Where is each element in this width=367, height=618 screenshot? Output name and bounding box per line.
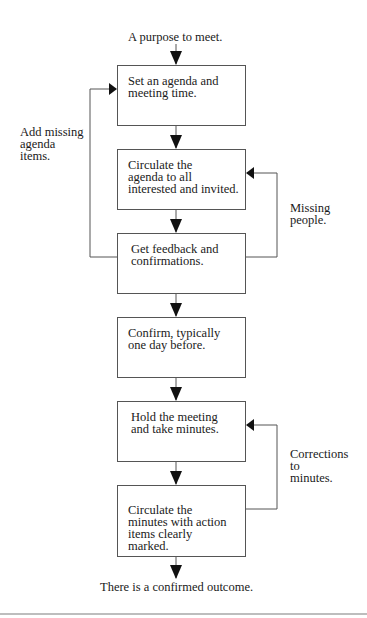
step-circulate-minutes: Circulate the minutes with action items … [117,485,246,557]
step-circulate-agenda: Circulate the agenda to all interested a… [117,149,246,210]
bottom-divider [0,613,367,615]
step-text: Circulate the minutes with action items … [128,504,227,552]
step-text: Confirm, typically one day before. [128,327,220,351]
step-hold-meeting: Hold the meeting and take minutes. [117,401,246,462]
step-text: Hold the meeting and take minutes. [131,411,219,435]
end-label: There is a confirmed outcome. [100,581,253,593]
step-text: Circulate the agenda to all interested a… [128,159,239,195]
loop-label-corrections: Corrections to minutes. [290,448,348,484]
step-text: Set an agenda and meeting time. [128,75,219,99]
start-label: A purpose to meet. [128,31,222,43]
step-confirm: Confirm, typically one day before. [117,317,246,378]
step-set-agenda: Set an agenda and meeting time. [117,65,246,126]
step-text: Get feedback and confirmations. [131,243,218,267]
step-get-feedback: Get feedback and confirmations. [117,233,246,294]
loop-label-add-missing-agenda: Add missing agenda items. [20,126,84,162]
flowchart: A purpose to meet. Set an agenda and mee… [0,0,367,618]
loop-label-missing-people: Missing people. [290,202,330,226]
